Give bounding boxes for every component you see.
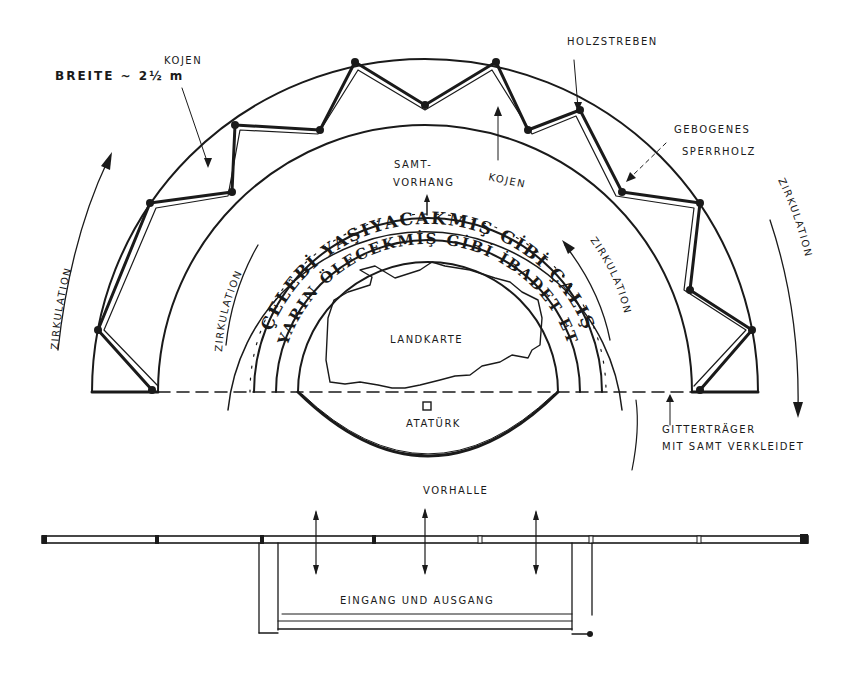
inscription-band: ÇELEBİ YAŞIYACAKMIŞ GİBİ ÇALIŞ YARIN ÖLE… — [250, 194, 606, 392]
labels: BREITE ~ 2½ m KOJEN HOLZSTREBEN GEBOGENE… — [49, 36, 814, 606]
pavilion-floor-plan: ÇELEBİ YAŞIYACAKMIŞ GİBİ ÇALIŞ YARIN ÖLE… — [0, 0, 858, 679]
label-zirkulation-inner-right: ZIRKULATION — [588, 235, 633, 316]
width-note: BREITE ~ 2½ m — [55, 69, 184, 83]
label-gittertraeger: GITTERTRÄGER — [662, 423, 756, 435]
inscription-outer-ring: ÇELEBİ YAŞIYACAKMIŞ GİBİ ÇALIŞ — [256, 208, 599, 334]
label-zirkulation-inner-left: ZIRKULATION — [213, 268, 244, 352]
label-zirkulation-outer-right: ZIRKULATION — [776, 176, 814, 259]
label-vorhalle: VORHALLE — [423, 485, 488, 496]
label-mit-samt-verkleidet: MIT SAMT VERKLEIDET — [662, 441, 804, 452]
label-zirkulation-outer-left: ZIRKULATION — [49, 266, 74, 350]
door-arrows — [313, 508, 539, 575]
label-ataturk: ATATÜRK — [406, 417, 461, 429]
label-holzstreben: HOLZSTREBEN — [567, 36, 658, 47]
label-gebogenes: GEBOGENES — [674, 124, 750, 135]
label-kojen-left: KOJEN — [164, 55, 202, 66]
map-of-turkey — [326, 262, 542, 388]
label-samt: SAMT- — [394, 159, 432, 170]
entrance-vestibule — [259, 543, 593, 637]
ataturk-statue-marker — [423, 402, 431, 410]
label-vorhang: VORHANG — [393, 177, 455, 188]
label-kojen-center: KOJEN — [488, 171, 528, 190]
label-eingang-und-ausgang: EINGANG UND AUSGANG — [340, 595, 494, 606]
label-landkarte: LANDKARTE — [390, 334, 463, 345]
label-sperrholz: SPERRHOLZ — [682, 146, 756, 157]
